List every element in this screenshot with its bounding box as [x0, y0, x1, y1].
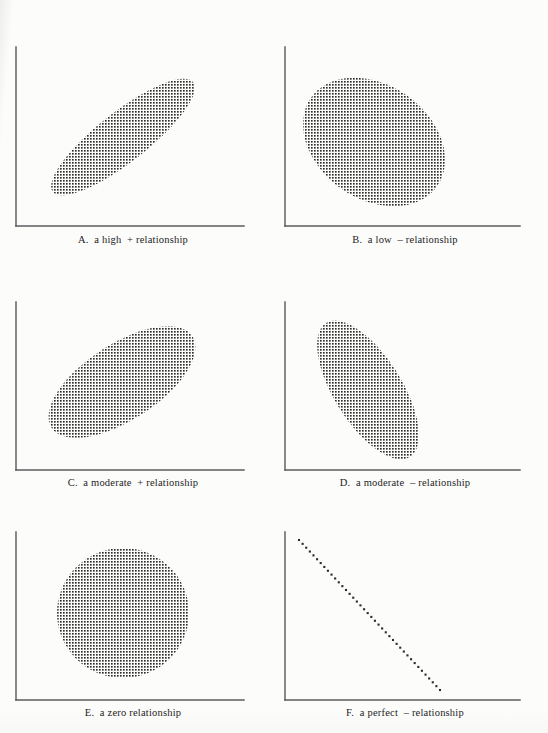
figure-grid: A. a high + relationship B. a low – rela…	[0, 0, 548, 733]
panel-b-plot	[272, 30, 538, 235]
panel-a-caption: A. a high + relationship	[0, 234, 266, 245]
panel-c-caption: C. a moderate + relationship	[0, 477, 266, 488]
scatter-cloud-e	[0, 525, 266, 710]
panel-f: F. a perfect – relationship	[272, 525, 538, 725]
panel-b-caption: B. a low – relationship	[272, 234, 538, 245]
panel-d-caption: D. a moderate – relationship	[272, 477, 538, 488]
panel-d-plot	[272, 295, 538, 480]
panel-b: B. a low – relationship	[272, 30, 538, 245]
panel-a: A. a high + relationship	[0, 30, 266, 245]
scatter-cloud-d	[272, 295, 538, 480]
scatter-line-f	[298, 539, 441, 691]
panel-e-plot	[0, 525, 266, 710]
panel-f-plot	[272, 525, 538, 710]
panel-d: D. a moderate – relationship	[272, 295, 538, 495]
panel-e-caption: E. a zero relationship	[0, 707, 266, 718]
panel-c: C. a moderate + relationship	[0, 295, 266, 495]
panel-a-plot	[0, 30, 266, 235]
scatter-cloud-a	[0, 30, 266, 235]
panel-c-plot	[0, 295, 266, 480]
scatter-cloud-c	[0, 295, 266, 480]
panel-e: E. a zero relationship	[0, 525, 266, 725]
scatter-cloud-b	[272, 30, 538, 235]
panel-f-caption: F. a perfect – relationship	[272, 707, 538, 718]
